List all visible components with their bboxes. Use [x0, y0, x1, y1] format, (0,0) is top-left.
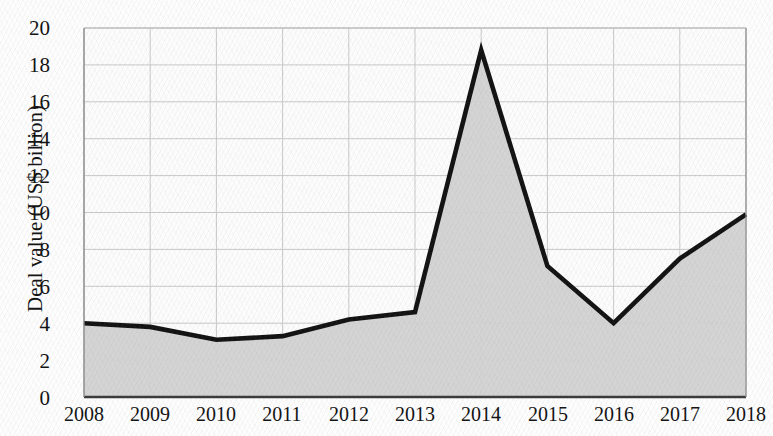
x-tick-label-2011: 2011 — [246, 404, 318, 424]
x-tick-label-2012: 2012 — [313, 404, 385, 424]
y-tick-label-18: 18 — [8, 55, 50, 76]
plot-area — [0, 0, 773, 436]
x-tick-label-2010: 2010 — [180, 404, 252, 424]
y-tick-label-8: 8 — [8, 240, 50, 261]
x-tick-label-2018: 2018 — [710, 404, 773, 424]
x-tick-label-2009: 2009 — [114, 404, 186, 424]
chart-figure: Deal value (US$ billion) 20 18 16 14 12 … — [0, 0, 773, 436]
y-tick-label-6: 6 — [8, 277, 50, 298]
y-tick-label-16: 16 — [8, 92, 50, 113]
y-tick-label-4: 4 — [8, 314, 50, 335]
y-tick-label-10: 10 — [8, 203, 50, 224]
x-tick-label-2008: 2008 — [48, 404, 120, 424]
x-tick-label-2014: 2014 — [445, 404, 517, 424]
x-tick-label-2016: 2016 — [578, 404, 650, 424]
y-tick-label-20: 20 — [8, 18, 50, 39]
y-tick-label-0: 0 — [8, 388, 50, 409]
x-tick-label-2013: 2013 — [379, 404, 451, 424]
y-tick-label-14: 14 — [8, 129, 50, 150]
x-tick-label-2015: 2015 — [512, 404, 584, 424]
y-tick-label-2: 2 — [8, 351, 50, 372]
y-tick-label-12: 12 — [8, 166, 50, 187]
x-tick-label-2017: 2017 — [644, 404, 716, 424]
